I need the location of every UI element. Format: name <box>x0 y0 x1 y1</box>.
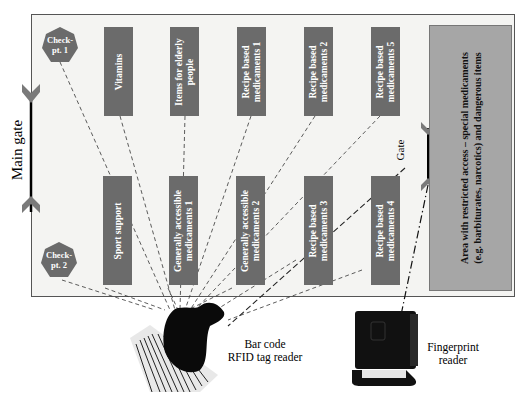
shelf-label-line2: medicaments 4 <box>386 200 396 260</box>
shelf-label-line1: Recipe based <box>375 204 385 257</box>
shelf-label-line2: medicaments 2 <box>251 200 261 260</box>
shelf-label-line2: medicaments 3 <box>319 200 329 260</box>
shelf-recipe-medicaments-1: Recipe basedmedicaments 1 <box>237 27 266 116</box>
shelf-recipe-medicaments-5: Recipe basedmedicaments 5 <box>371 27 400 116</box>
shelf-label-line1: Generally accessible <box>173 189 183 271</box>
barcode-reader-label: Bar code RFID tag reader <box>205 338 325 364</box>
shelf-items-for-elderly: Items for elderlypeople <box>170 27 199 116</box>
main-gate-label: Main gate <box>9 120 26 180</box>
shelf-sport-support: Sport support <box>103 176 132 285</box>
shelf-label: Vitamins <box>113 53 123 90</box>
shelf-generally-accessible-1: Generally accessiblemedicaments 1 <box>169 176 198 285</box>
shelf-recipe-medicaments-2: Recipe basedmedicaments 2 <box>304 27 333 116</box>
shelf-recipe-medicaments-4: Recipe basedmedicaments 4 <box>371 176 400 285</box>
shelf-label-line1: Generally accessible <box>240 189 250 271</box>
shelf-label-line1: Recipe based <box>308 45 318 98</box>
shelf-label-line2: medicaments 1 <box>184 200 194 260</box>
barcode-reader-label-line2: RFID tag reader <box>228 351 303 363</box>
checkpoint-2: Check-pt. 2 <box>40 241 78 279</box>
fingerprint-reader-label-line1: Fingerprint <box>427 341 479 353</box>
shelf-label-line1: Recipe based <box>375 45 385 98</box>
checkpoint-1-label-line1: Check- <box>47 35 73 45</box>
fingerprint-reader-label-line2: reader <box>439 354 468 366</box>
shelf-vitamins: Vitamins <box>104 27 133 116</box>
shelf-generally-accessible-2: Generally accessiblemedicaments 2 <box>236 176 265 285</box>
shelf-label-line2: medicaments 1 <box>252 41 262 101</box>
restricted-area: Area with restricted access – special me… <box>429 25 512 291</box>
shelf-label-line1: Recipe based <box>308 204 318 257</box>
shelf-recipe-medicaments-3: Recipe basedmedicaments 3 <box>304 176 333 285</box>
restricted-area-label-line1: Area with restricted access – special me… <box>459 52 470 264</box>
checkpoint-1: Check-pt. 1 <box>41 26 79 64</box>
fingerprint-reader-label: Fingerprint reader <box>418 341 488 367</box>
checkpoint-1-label-line2: pt. 1 <box>52 45 68 55</box>
shelf-label-line1: Items for elderly <box>174 38 184 105</box>
restricted-area-label-line2: (e.g. barbiturates, narcotics) and dange… <box>472 52 483 263</box>
shelf-label-line2: medicaments 2 <box>319 41 329 101</box>
shelf-label-line2: people <box>185 58 195 84</box>
shelf-label: Sport support <box>112 202 122 259</box>
barcode-reader-label-line1: Bar code <box>244 338 285 350</box>
checkpoint-2-label-line2: pt. 2 <box>51 260 67 270</box>
shelf-label-line2: medicaments 5 <box>386 41 396 101</box>
shelf-label-line1: Recipe based <box>241 45 251 98</box>
gate-label: Gate <box>394 140 406 161</box>
checkpoint-2-label-line1: Check- <box>46 250 72 260</box>
